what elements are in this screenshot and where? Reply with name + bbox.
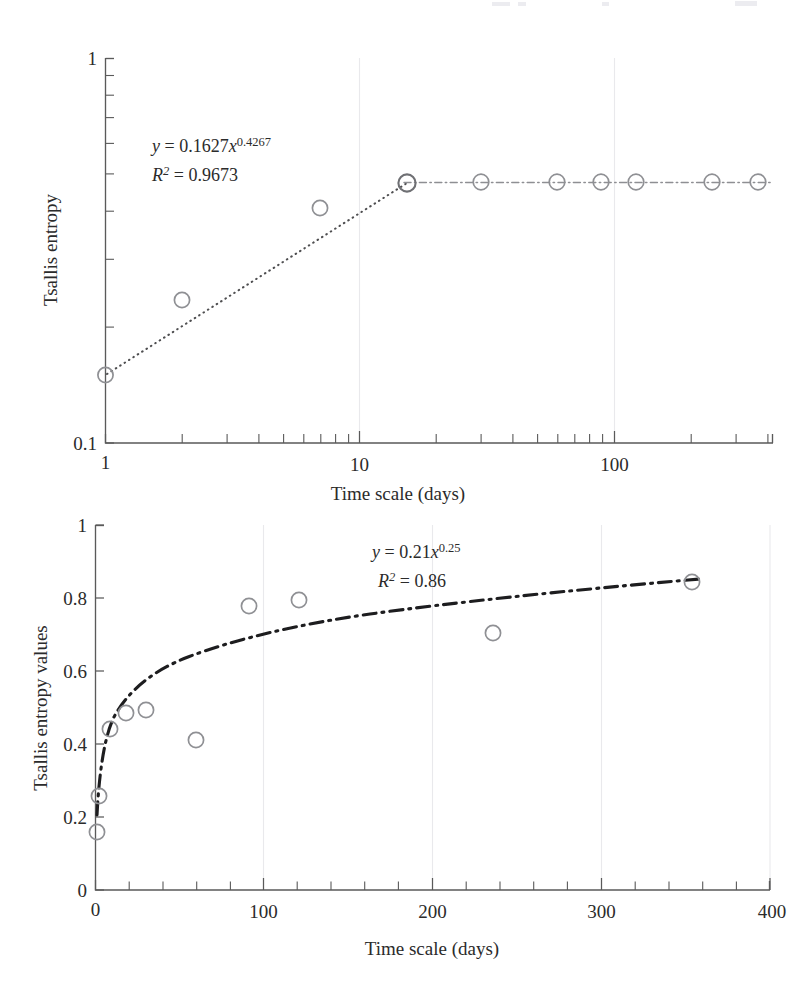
data-point [188, 732, 203, 747]
top-eq-coeff: = 0.1627 [160, 136, 229, 156]
bottom-data-markers [89, 574, 699, 839]
bottom-xaxis-ticks [96, 878, 771, 890]
top-ytick-label-1: 1 [88, 48, 98, 69]
top-r2-symbol: R [151, 165, 163, 185]
scan-artifacts [492, 1, 757, 6]
top-r2-value: = 0.9673 [169, 165, 238, 185]
bottom-chart-svg: 0 0.2 0.4 0.6 0.8 1 0 100 200 300 400 Ti… [0, 505, 809, 999]
bottom-r2-symbol: R [377, 571, 389, 591]
top-chart-svg: 1 0.1 1 10 100 Time scale (days) Tsallis… [0, 0, 809, 510]
top-gridlines [360, 58, 615, 443]
top-eq-exponent: 0.4267 [237, 135, 271, 149]
top-yaxis-ticks [106, 76, 115, 444]
bottom-xtick-label-100: 100 [249, 901, 278, 922]
top-axes [106, 58, 774, 443]
svg-text:R2 = 0.9673: R2 = 0.9673 [151, 164, 238, 185]
svg-text:y = 0.21x0.25: y = 0.21x0.25 [370, 541, 461, 562]
data-point [174, 292, 189, 307]
bottom-eq-y: y [370, 542, 380, 562]
figure-top-loglog-chart: 1 0.1 1 10 100 Time scale (days) Tsallis… [0, 0, 809, 510]
bottom-xaxis-title: Time scale (days) [365, 938, 499, 960]
bottom-ytick-label-0: 0 [78, 880, 88, 901]
bottom-ytick-label-0.2: 0.2 [63, 807, 87, 828]
bottom-xtick-label-0: 0 [91, 899, 101, 920]
bottom-fit-dashdot-curve [97, 579, 700, 815]
data-point [291, 592, 306, 607]
bottom-ytick-label-1: 1 [78, 515, 88, 536]
top-xaxis-title: Time scale (days) [331, 483, 465, 505]
bottom-annotation-equation: y = 0.21x0.25 R2 = 0.86 [370, 541, 461, 591]
data-point [684, 574, 699, 589]
bottom-ytick-label-0.6: 0.6 [63, 661, 87, 682]
bottom-eq-exponent: 0.25 [439, 541, 461, 555]
svg-text:R2 = 0.86: R2 = 0.86 [377, 570, 446, 591]
top-eq-y: y [150, 136, 160, 156]
top-fit-dotted-line [107, 183, 407, 374]
data-point [241, 598, 256, 613]
bottom-ytick-label-0.8: 0.8 [63, 588, 87, 609]
top-eq-x: x [228, 136, 237, 156]
bottom-eq-coeff: = 0.21 [380, 542, 431, 562]
bottom-r2-value: = 0.86 [395, 571, 446, 591]
bottom-xtick-label-400: 400 [758, 901, 787, 922]
bottom-xtick-label-200: 200 [418, 901, 447, 922]
data-point [485, 625, 500, 640]
bottom-ytick-label-0.4: 0.4 [63, 734, 87, 755]
data-point [138, 702, 153, 717]
data-point [118, 705, 133, 720]
data-point [312, 200, 327, 215]
top-xaxis-ticks [106, 431, 768, 443]
top-data-markers [98, 174, 766, 382]
figure-bottom-linear-chart: 0 0.2 0.4 0.6 0.8 1 0 100 200 300 400 Ti… [0, 505, 809, 999]
bottom-yaxis-title: Tsallis entropy values [30, 625, 51, 790]
bottom-xtick-label-300: 300 [587, 901, 616, 922]
top-ytick-label-0.1: 0.1 [73, 433, 97, 454]
top-yaxis-title: Tsallis entropy [40, 193, 61, 306]
svg-text:y = 0.1627x0.4267: y = 0.1627x0.4267 [150, 135, 271, 156]
bottom-yaxis-ticks [96, 525, 105, 890]
top-xtick-label-100: 100 [600, 454, 629, 475]
top-xtick-label-10: 10 [350, 454, 369, 475]
top-annotation-equation: y = 0.1627x0.4267 R2 = 0.9673 [150, 135, 271, 185]
top-xtick-label-1: 1 [101, 452, 111, 473]
bottom-eq-x: x [430, 542, 439, 562]
data-point [89, 824, 104, 839]
